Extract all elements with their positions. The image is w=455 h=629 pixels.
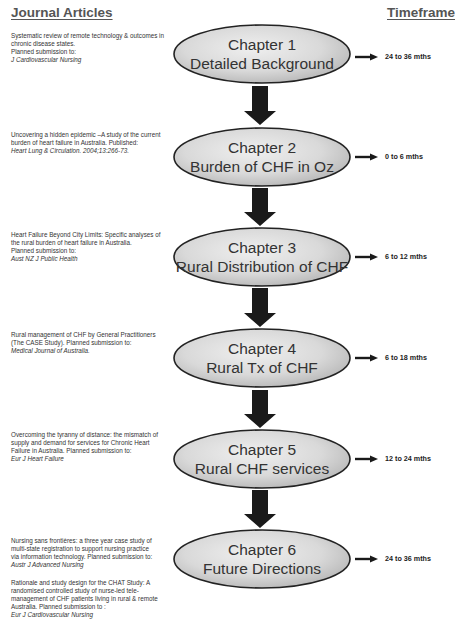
chapter-number: Chapter 5 — [228, 441, 296, 458]
timeframe-label-5: 12 to 24 mths — [385, 454, 431, 463]
chapter-number: Chapter 2 — [228, 139, 296, 156]
chapter-number: Chapter 1 — [228, 36, 296, 53]
chapter-title: Burden of CHF in Oz — [190, 158, 334, 175]
down-arrow-icon — [244, 86, 276, 125]
down-arrow-icon — [244, 390, 276, 428]
timeframe-label-1: 24 to 36 mths — [385, 52, 431, 61]
chapter-title: Rural Distribution of CHF — [176, 258, 348, 275]
chapter-1-node: Chapter 1 Detailed Background — [174, 25, 350, 83]
right-arrow-icon — [355, 154, 378, 161]
down-arrow-icon — [244, 490, 276, 528]
chapter-title: Future Directions — [203, 560, 321, 577]
right-arrow-icon — [355, 254, 378, 261]
right-arrow-icon — [355, 456, 378, 463]
chapter-5-node: Chapter 5 Rural CHF services — [174, 430, 350, 488]
chapter-number: Chapter 4 — [228, 340, 296, 357]
chapter-2-node: Chapter 2 Burden of CHF in Oz — [174, 128, 350, 186]
timeframe-arrows — [355, 54, 378, 563]
chapter-3-node: Chapter 3 Rural Distribution of CHF — [174, 228, 350, 286]
chapter-4-node: Chapter 4 Rural Tx of CHF — [174, 329, 350, 387]
right-arrow-icon — [355, 355, 378, 362]
chapter-number: Chapter 3 — [228, 239, 296, 256]
chapter-6-node: Chapter 6 Future Directions — [174, 530, 350, 588]
timeframe-label-3: 6 to 12 mths — [385, 252, 427, 261]
right-arrow-icon — [355, 54, 378, 61]
down-arrow-icon — [244, 288, 276, 327]
chapter-number: Chapter 6 — [228, 541, 296, 558]
chapter-title: Detailed Background — [190, 55, 334, 72]
down-arrow-icon — [244, 188, 276, 226]
timeframe-label-2: 0 to 6 mths — [385, 152, 423, 161]
chapter-title: Rural CHF services — [195, 460, 330, 477]
chapter-title: Rural Tx of CHF — [206, 359, 318, 376]
timeframe-label-4: 6 to 18 mths — [385, 353, 427, 362]
right-arrow-icon — [355, 556, 378, 563]
timeframe-label-6: 24 to 36 mths — [385, 554, 431, 563]
